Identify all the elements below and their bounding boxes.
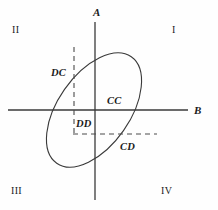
region-label-cd: CD <box>120 142 135 153</box>
region-label-dd: DD <box>76 119 92 130</box>
axes-group <box>8 22 188 200</box>
quadrant-label-ii: II <box>12 25 19 35</box>
region-label-cc: CC <box>107 96 121 107</box>
region-label-dc: DC <box>51 68 66 79</box>
quadrant-label-i: I <box>172 25 176 35</box>
axis-label-b: B <box>194 105 201 116</box>
payoff-quadrant-diagram: A B I II III IV DC CC DD CD <box>0 0 218 210</box>
quadrant-label-iv: IV <box>161 186 172 196</box>
axis-label-a: A <box>93 7 100 18</box>
quadrant-label-iii: III <box>11 186 22 196</box>
